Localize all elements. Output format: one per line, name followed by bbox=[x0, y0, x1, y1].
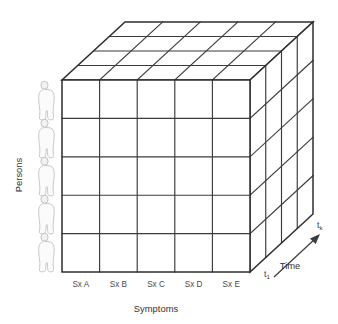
data-cube-figure: t1 tk Time Persons Sx A Sx B Sx C Sx D S… bbox=[0, 0, 338, 324]
persons-icon-column bbox=[39, 81, 54, 272]
time-axis-label: Time bbox=[280, 260, 300, 271]
cube-diagram-canvas: t1 tk Time Persons Sx A Sx B Sx C Sx D S… bbox=[0, 0, 338, 324]
person-silhouette-icon bbox=[39, 119, 54, 158]
person-silhouette-icon bbox=[39, 157, 54, 196]
symptom-tick-label: Sx E bbox=[223, 280, 241, 289]
persons-axis-label: Persons bbox=[13, 157, 24, 192]
person-silhouette-icon bbox=[39, 195, 54, 234]
person-silhouette-icon bbox=[39, 81, 54, 120]
person-silhouette-icon bbox=[39, 233, 54, 272]
symptom-tick-label: Sx C bbox=[147, 280, 165, 289]
time-tick-end: tk bbox=[317, 220, 323, 231]
symptom-tick-label: Sx B bbox=[110, 280, 128, 289]
symptom-tick-label: Sx A bbox=[72, 280, 89, 289]
symptom-tick-label: Sx D bbox=[185, 280, 203, 289]
cube-front-face bbox=[62, 80, 250, 272]
symptom-tick-labels: Sx A Sx B Sx C Sx D Sx E bbox=[72, 280, 240, 289]
symptoms-axis-label: Symptoms bbox=[134, 303, 179, 314]
time-tick-start: t1 bbox=[264, 269, 270, 280]
